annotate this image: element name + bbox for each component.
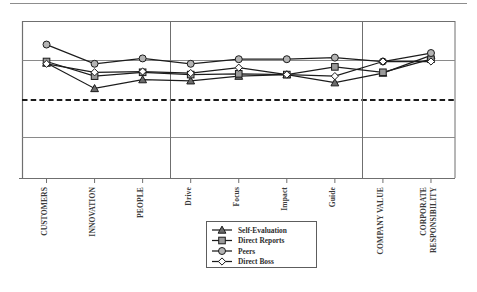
legend-label: Direct Reports [238,236,285,245]
x-axis-label-people: PEOPLE [136,187,145,218]
data-point-square [380,69,387,76]
x-axis-label-customers: CUSTOMERS [40,187,49,236]
x-axis-label-impact: Impact [280,187,289,211]
data-point-circle-filled [427,50,434,57]
series-layer [43,41,435,92]
legend-label: Self-Evaluation [238,226,287,235]
data-point-circle-filled [43,41,50,48]
data-point-diamond-open [331,73,338,80]
x-axis-label-focus: Focus [232,187,241,206]
x-axis-label-corporate: CORPORATE [419,187,428,236]
x-axis-label-innovation: INNOVATION [88,187,97,237]
performance-line-chart: CUSTOMERSINNOVATIONPEOPLEDriveFocusImpac… [0,0,477,292]
x-axis-label-company-value: COMPANY VALUE [376,187,385,254]
data-point-circle-filled [139,55,146,62]
data-point-square [332,64,339,71]
legend-item-direct-reports[interactable]: Direct Reports [212,236,285,245]
data-point-circle-filled [283,56,290,63]
data-point-circle-filled [187,60,194,67]
x-axis-label-responsibility: RESPONSIBILITY [429,187,438,253]
x-axis-label-drive: Drive [184,186,193,205]
data-point-circle-filled [235,56,242,63]
x-axis-label-guide: Guide [328,186,337,207]
chart-legend: Self-EvaluationDirect ReportsPeersDirect… [207,222,317,268]
data-point-circle-filled [219,248,226,255]
data-point-circle-filled [91,60,98,67]
chart-figure: CUSTOMERSINNOVATIONPEOPLEDriveFocusImpac… [0,0,477,292]
data-point-square [219,237,226,244]
legend-label: Direct Boss [238,257,274,266]
data-point-circle-filled [331,54,338,61]
legend-item-direct-boss[interactable]: Direct Boss [212,257,274,266]
legend-label: Peers [238,247,255,256]
